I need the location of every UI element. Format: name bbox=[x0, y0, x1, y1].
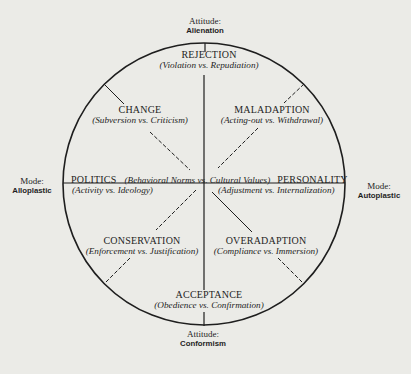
sector-rejection: REJECTION (Violation vs. Repudiation) bbox=[134, 49, 284, 70]
politics-sub: (Activity vs. Ideology) bbox=[72, 185, 153, 195]
axis-title: Attitude: bbox=[170, 17, 240, 26]
center-axis-middle: (Behavioral Norms vs. Cultural Values) bbox=[125, 175, 271, 185]
diagonal-lower-right-inner bbox=[212, 192, 252, 232]
diagonal-lower-left-inner bbox=[156, 190, 196, 230]
sector-sub: (Acting-out vs. Withdrawal) bbox=[208, 115, 336, 125]
diagonal-upper-left-outer bbox=[104, 84, 124, 104]
sector-acceptance: ACCEPTANCE (Obedience vs. Confirmation) bbox=[134, 289, 284, 310]
sector-label: REJECTION bbox=[134, 49, 284, 60]
mode-left-label: Mode: Alloplastic bbox=[4, 177, 60, 195]
personality-label: PERSONALITY bbox=[277, 174, 348, 185]
diagonal-upper-right-outer bbox=[284, 84, 304, 103]
personality-sub: (Adjustment vs. Internalization) bbox=[218, 185, 335, 195]
attitude-bottom-label: Attitude: Conformism bbox=[168, 330, 238, 348]
axis-title: Mode: bbox=[350, 182, 408, 191]
sector-label: ACCEPTANCE bbox=[134, 289, 284, 300]
axis-value: Autoplastic bbox=[350, 191, 408, 200]
diagonal-lower-right-outer bbox=[278, 258, 304, 284]
mode-right-label: Mode: Autoplastic bbox=[350, 182, 408, 200]
sector-overadaption: OVERADAPTION (Compliance vs. Immersion) bbox=[204, 235, 328, 256]
axis-title: Attitude: bbox=[168, 330, 238, 339]
attitude-top-label: Attitude: Alienation bbox=[170, 17, 240, 35]
axis-value: Conformism bbox=[168, 339, 238, 348]
sector-label: MALADAPTION bbox=[208, 104, 336, 115]
sector-label: CONSERVATION bbox=[78, 235, 206, 246]
sector-change: CHANGE (Subversion vs. Criticism) bbox=[80, 104, 200, 125]
sector-sub: (Enforcement vs. Justification) bbox=[78, 246, 206, 256]
politics-label: POLITICS bbox=[71, 174, 117, 185]
sector-sub: (Obedience vs. Confirmation) bbox=[134, 300, 284, 310]
sector-conservation: CONSERVATION (Enforcement vs. Justificat… bbox=[78, 235, 206, 256]
sector-maladaption: MALADAPTION (Acting-out vs. Withdrawal) bbox=[208, 104, 336, 125]
sector-label: OVERADAPTION bbox=[204, 235, 328, 246]
sector-label: CHANGE bbox=[80, 104, 200, 115]
axis-value: Alienation bbox=[170, 26, 240, 35]
axis-value: Alloplastic bbox=[4, 186, 60, 195]
sector-sub: (Compliance vs. Immersion) bbox=[204, 246, 328, 256]
sector-sub: (Subversion vs. Criticism) bbox=[80, 115, 200, 125]
sector-sub: (Violation vs. Repudiation) bbox=[134, 60, 284, 70]
diagonal-upper-right-inner bbox=[218, 128, 258, 168]
axis-title: Mode: bbox=[4, 177, 60, 186]
diagonal-upper-left-inner bbox=[150, 132, 190, 170]
diagonal-lower-left-outer bbox=[104, 258, 130, 284]
